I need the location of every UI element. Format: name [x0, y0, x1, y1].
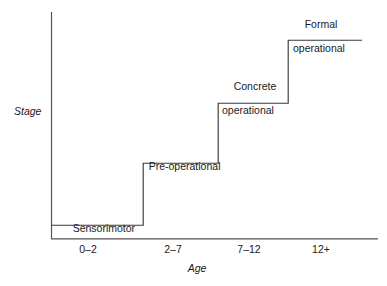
step-label-concrete-operational-line1: Concrete — [234, 80, 277, 92]
step-label-sensorimotor-line1: Sensorimotor — [73, 222, 135, 234]
x-tick-label-7-12: 7–12 — [227, 243, 271, 255]
piaget-stages-step-chart: Stage Age 0–2 2–7 7–12 12+ Sensorimotor … — [0, 0, 387, 286]
x-axis-title: Age — [183, 262, 211, 275]
step-label-pre-operational-line1: Pre-operational — [149, 160, 221, 172]
step-label-formal-operational-line1: Formal — [305, 18, 338, 30]
step-label-formal-operational-line2: operational — [293, 42, 345, 54]
x-tick-label-12-plus: 12+ — [301, 243, 341, 255]
step-label-formal-operational: Formal operational — [293, 6, 345, 78]
step-label-concrete-operational-line2: operational — [222, 104, 276, 116]
y-axis-title: Stage — [14, 105, 41, 118]
step-label-pre-operational: Pre-operational — [137, 148, 220, 184]
step-label-sensorimotor: Sensorimotor — [61, 210, 135, 246]
x-tick-label-2-7: 2–7 — [153, 243, 193, 255]
step-label-concrete-operational: Concrete operational — [222, 68, 276, 140]
